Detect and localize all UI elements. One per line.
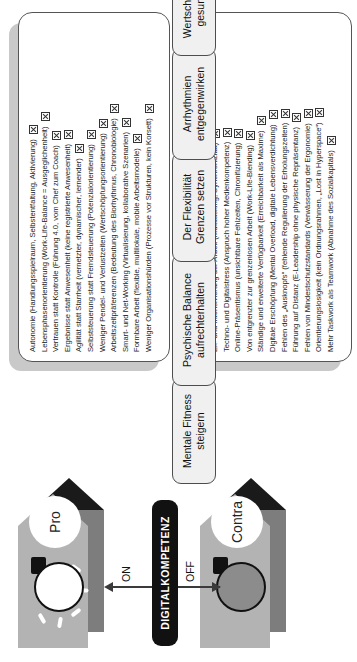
list-item-label: Mehr Taskwork als Teamwork (Abnahme des …	[325, 150, 337, 352]
poster-canvas: Pro Contra DIGITALKOMPETENZ ON OFF Auton…	[0, 0, 357, 662]
checkbox-checked-icon[interactable]	[292, 113, 301, 122]
list-item-label: Digitale Erschöpfung (Mental Overload, d…	[267, 124, 279, 352]
list-item: Orientierungslosigkeit (kein Ordnungsrah…	[313, 22, 325, 352]
list-item: Vertrauen statt Kontrolle (Führung 4.0, …	[50, 22, 62, 352]
checkbox-checked-icon[interactable]	[304, 109, 313, 118]
checkbox-checked-icon[interactable]	[41, 113, 50, 122]
list-item: Techno- und Digitalstress (Anspruch hohe…	[221, 22, 233, 352]
list-item: Fehlen von Mindestschutzstandards (Verwä…	[302, 22, 314, 352]
off-label: OFF	[184, 561, 196, 582]
on-label: ON	[120, 566, 132, 582]
list-item-label: Autonomie (Handlungsspielraum, Selbstent…	[27, 139, 39, 352]
contra-label-text: Contra	[229, 501, 245, 543]
list-item-label: Orientierungslosigkeit (kein Ordnungsrah…	[313, 122, 325, 352]
list-item: Fehlen des „Ausknopfs“ (fehlende Regulie…	[279, 22, 291, 352]
section-header-line: Arrhythmien	[181, 76, 194, 133]
contra-card-wrapper: Ex- und Intensivierung der Arbeit (Multi…	[200, 14, 350, 362]
section-header-line: gesund führen	[194, 0, 207, 27]
list-item-label: Smart- und Net-Working (Virtualisierung,…	[120, 132, 132, 352]
list-item: Weniger Organisationshürden (Prozesse vo…	[143, 22, 155, 352]
checkbox-checked-icon[interactable]	[281, 109, 290, 118]
section-header-pill[interactable]: Mentale Fitnesssteigern	[172, 378, 216, 484]
list-item-label: Führung auf Distanz (E-Leadership ohne p…	[290, 127, 302, 352]
list-item: Weniger Pendel- und Verlustzeiten (Werts…	[97, 22, 109, 352]
section-header-line: entgegenwirken	[194, 67, 207, 141]
list-item-label: Ständige und erweiterte Verfügbarkeit (E…	[255, 130, 267, 352]
list-item: Autonomie (Handlungsspielraum, Selbstent…	[27, 22, 39, 352]
section-header-line: Psychische Balance	[181, 273, 194, 367]
list-item-label: Lebensphasenorientierung (Work-Life-Bala…	[39, 127, 51, 353]
list-item: Führung auf Distanz (E-Leadership ohne p…	[290, 22, 302, 352]
list-item: Mehr Taskwork als Teamwork (Abnahme des …	[325, 22, 337, 352]
checkbox-checked-icon[interactable]	[234, 129, 243, 138]
section-header-pill[interactable]: Der FlexibilitätGrenzen setzen	[172, 152, 216, 262]
digitalkompetenz-switch[interactable]: DIGITALKOMPETENZ	[152, 500, 178, 646]
list-item: Online-Präsentismus (unsichtbare Fehlzei…	[232, 22, 244, 352]
checkbox-checked-icon[interactable]	[269, 110, 278, 119]
section-header-pill[interactable]: Arrhythmienentgegenwirken	[172, 48, 216, 160]
checkbox-checked-icon[interactable]	[64, 130, 73, 139]
list-item-label: Agilität statt Starrheit (vernetzter, dy…	[73, 158, 85, 352]
wire-on	[112, 586, 152, 588]
section-header-pill[interactable]: Psychische Balanceaufrechterhalten	[172, 254, 216, 386]
list-item-label: Online-Präsentismus (unsichtbare Fehlzei…	[232, 143, 244, 352]
checkbox-checked-icon[interactable]	[29, 125, 38, 134]
list-item: Arbeitszeitpräferenzen (Bedeutung des Bi…	[108, 22, 120, 352]
list-item: Smart- und Net-Working (Virtualisierung,…	[120, 22, 132, 352]
wire-off-arrowhead	[212, 582, 221, 592]
section-header-line: Wertschätzend und	[181, 0, 194, 38]
list-item: Ständige und erweiterte Verfügbarkeit (E…	[255, 22, 267, 352]
checkbox-checked-icon[interactable]	[110, 104, 119, 113]
list-item-label: Selbststeuerung statt Fremdsteuerung (Po…	[85, 144, 97, 352]
section-header-line: Der Flexibilität	[181, 174, 194, 241]
list-item-label: Weniger Pendel- und Verlustzeiten (Werts…	[97, 133, 109, 352]
list-item-label: Arbeitszeitpräferenzen (Bedeutung des Bi…	[108, 118, 120, 352]
contra-circle-label: Contra	[211, 496, 263, 548]
pro-item-list: Autonomie (Handlungsspielraum, Selbstent…	[19, 13, 161, 361]
list-item-label: Formbare Arbeit (flexible, multilokale, …	[131, 148, 143, 352]
checkbox-checked-icon[interactable]	[257, 116, 266, 125]
checkbox-checked-icon[interactable]	[145, 104, 154, 113]
list-item-label: Fehlen von Mindestschutzstandards (Verwä…	[302, 123, 314, 352]
checkbox-checked-icon[interactable]	[223, 128, 232, 137]
section-header-pill[interactable]: Wertschätzend undgesund führen	[172, 0, 216, 56]
checkbox-checked-icon[interactable]	[122, 118, 131, 127]
list-item: Lebensphasenorientierung (Work-Life-Bala…	[39, 22, 51, 352]
checkbox-checked-icon[interactable]	[52, 131, 61, 140]
contra-card: Ex- und Intensivierung der Arbeit (Multi…	[200, 12, 352, 362]
list-item-label: Fehlen des „Ausknopfs“ (fehlende Regulie…	[279, 123, 291, 352]
pro-label-text: Pro	[47, 511, 63, 533]
checkbox-checked-icon[interactable]	[246, 131, 255, 140]
list-item-label: Techno- und Digitalstress (Anspruch hohe…	[221, 142, 233, 352]
header-pill-row: Mentale FitnesssteigernPsychische Balanc…	[172, 14, 206, 484]
section-header-line: Grenzen setzen	[194, 170, 207, 244]
list-item: Formbare Arbeit (flexible, multilokale, …	[131, 22, 143, 352]
list-item: Agilität statt Starrheit (vernetzter, dy…	[73, 22, 85, 352]
checkbox-checked-icon[interactable]	[75, 144, 84, 153]
list-item: Ergebnisse statt Anwesenheit (keine regi…	[62, 22, 74, 352]
section-header-line: aufrechterhalten	[194, 282, 207, 358]
list-item-label: Vertrauen statt Kontrolle (Führung 4.0, …	[50, 145, 62, 352]
checkbox-checked-icon[interactable]	[133, 134, 142, 143]
list-item-label: Von entgrenzter zur grenzenlosen Arbeit …	[244, 145, 256, 352]
pro-card: Autonomie (Handlungsspielraum, Selbstent…	[18, 12, 170, 362]
list-item-label: Weniger Organisationshürden (Prozesse vo…	[143, 118, 155, 352]
list-item: Von entgrenzter zur grenzenlosen Arbeit …	[244, 22, 256, 352]
pro-card-wrapper: Autonomie (Handlungsspielraum, Selbstent…	[18, 14, 168, 362]
checkbox-checked-icon[interactable]	[99, 119, 108, 128]
pro-circle-label: Pro	[29, 496, 81, 548]
contra-item-list: Ex- und Intensivierung der Arbeit (Multi…	[201, 13, 343, 361]
checkbox-checked-icon[interactable]	[87, 130, 96, 139]
wire-on-arrowhead	[104, 582, 113, 592]
section-header-line: Mentale Fitness	[181, 394, 194, 468]
checkbox-checked-icon[interactable]	[327, 136, 336, 145]
section-header-line: steigern	[194, 412, 207, 449]
list-item: Digitale Erschöpfung (Mental Overload, d…	[267, 22, 279, 352]
list-item-label: Ergebnisse statt Anwesenheit (keine regi…	[62, 144, 74, 352]
list-item: Selbststeuerung statt Fremdsteuerung (Po…	[85, 22, 97, 352]
checkbox-checked-icon[interactable]	[315, 108, 324, 117]
switch-label: DIGITALKOMPETENZ	[159, 516, 171, 630]
